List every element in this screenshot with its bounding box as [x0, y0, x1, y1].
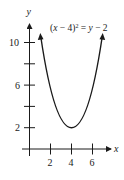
- equation-label: (x − 4)2 = y − 2: [50, 23, 108, 34]
- x-axis-label: x: [113, 143, 119, 154]
- xtick-label-6: 6: [90, 157, 95, 168]
- ytick-label-2: 2: [15, 122, 20, 133]
- curve-arrow-right-icon: [100, 33, 106, 40]
- ytick-label-6: 6: [15, 80, 20, 91]
- curve-arrow-left-icon: [38, 33, 44, 40]
- xtick-label-4: 4: [69, 157, 74, 168]
- ytick-label-10: 10: [9, 37, 19, 48]
- parabola-curve: [41, 38, 102, 128]
- parabola-chart: y x 2 6 10 2 4 6 (x − 4)2 = y − 2: [0, 0, 124, 180]
- xtick-label-2: 2: [48, 157, 53, 168]
- y-axis-label: y: [26, 6, 32, 17]
